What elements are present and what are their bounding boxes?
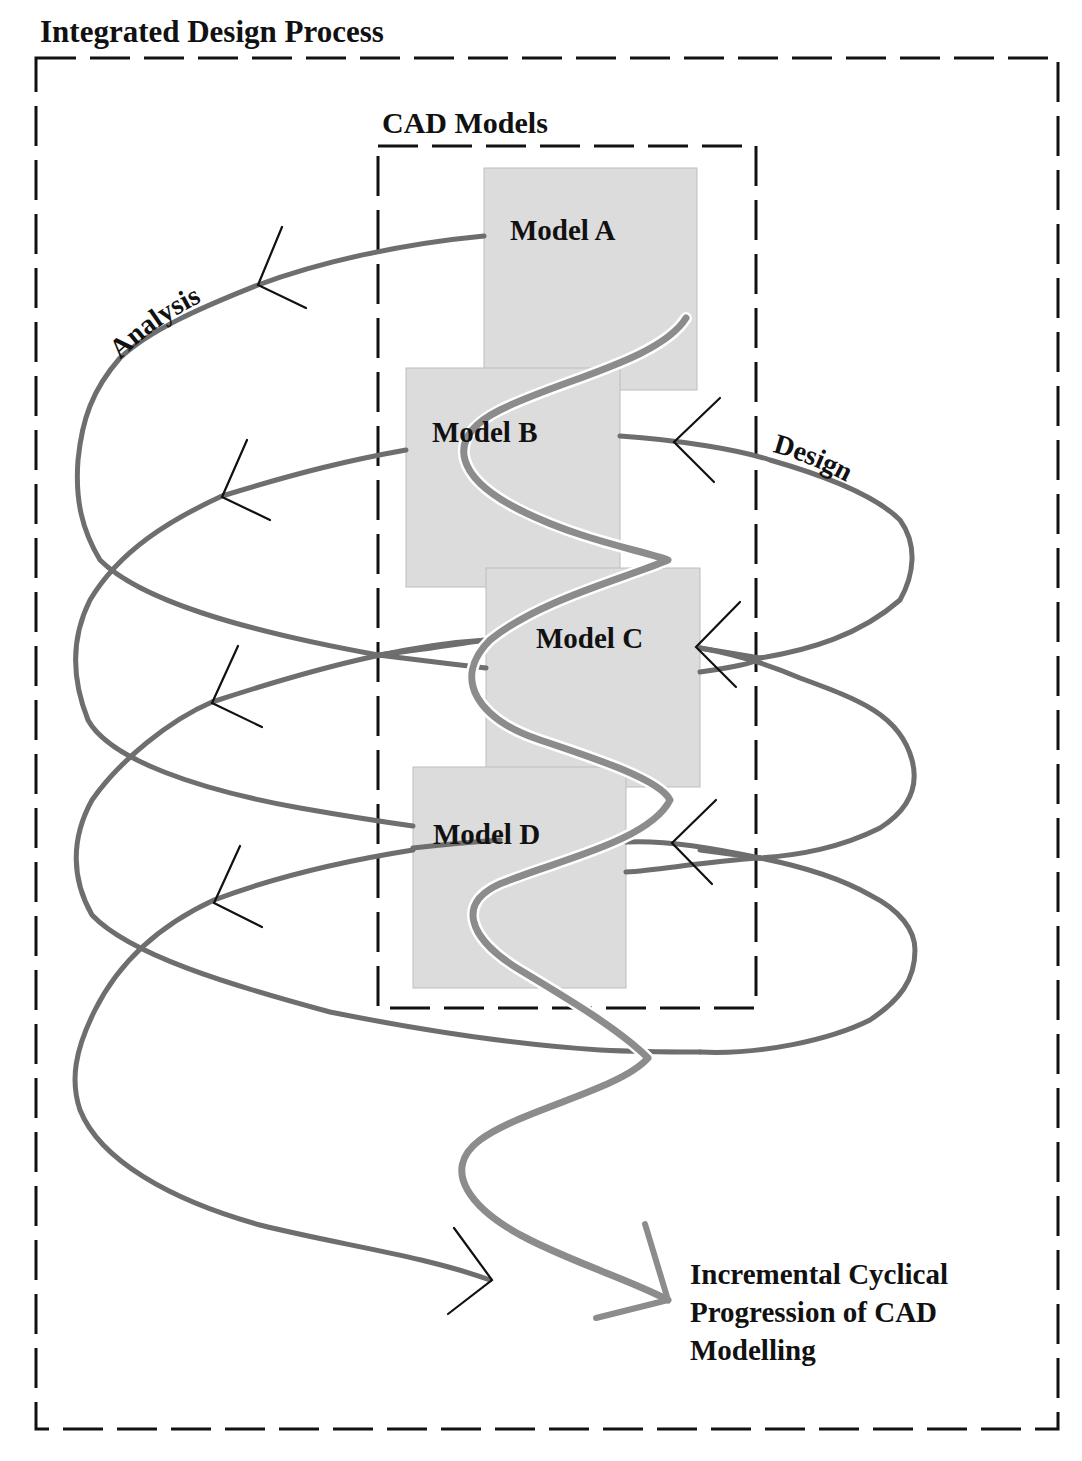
model-d-label: Model D — [433, 818, 540, 851]
model-b-label: Model B — [432, 416, 538, 449]
arrowhead-icon — [696, 602, 740, 687]
caption-line: Incremental Cyclical — [690, 1255, 948, 1293]
inner-frame-title: CAD Models — [382, 106, 548, 140]
integrated-design-diagram: Analysis Design Integrated Design Proces… — [0, 0, 1082, 1461]
arrowhead-icon — [258, 227, 306, 308]
model-a-box — [484, 168, 697, 390]
model-c-label: Model C — [536, 622, 643, 655]
arrowhead-icon — [222, 440, 270, 520]
caption-line: Modelling — [690, 1331, 948, 1369]
progression-caption: Incremental Cyclical Progression of CAD … — [690, 1255, 948, 1369]
outer-frame-title: Integrated Design Process — [40, 14, 384, 50]
model-a-label: Model A — [510, 214, 616, 247]
caption-line: Progression of CAD — [690, 1293, 948, 1331]
design-label: Design — [770, 428, 858, 488]
analysis-label: Analysis — [103, 279, 205, 364]
